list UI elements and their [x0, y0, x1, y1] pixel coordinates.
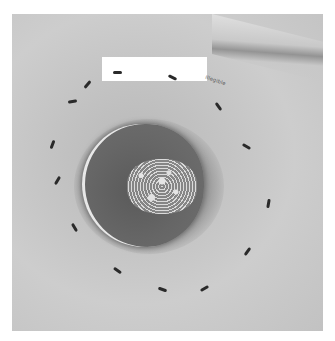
ink-mark: [113, 267, 122, 275]
redaction-box: [102, 57, 207, 81]
ink-mark: [54, 176, 61, 185]
ink-mark: [200, 285, 209, 292]
skin-fold: [212, 14, 323, 86]
ink-mark: [50, 140, 56, 149]
handwritten-label: illegible: [205, 74, 227, 86]
ink-mark: [242, 143, 251, 150]
ink-mark: [244, 247, 252, 256]
ink-mark: [158, 287, 167, 293]
wound-photograph: illegible: [12, 14, 323, 331]
ink-mark: [83, 80, 91, 89]
ink-mark: [266, 199, 271, 208]
ink-mark: [113, 71, 122, 74]
ink-mark: [215, 102, 223, 111]
ink-mark: [71, 223, 78, 232]
wound-slough: [127, 159, 197, 214]
ink-mark: [68, 99, 77, 104]
